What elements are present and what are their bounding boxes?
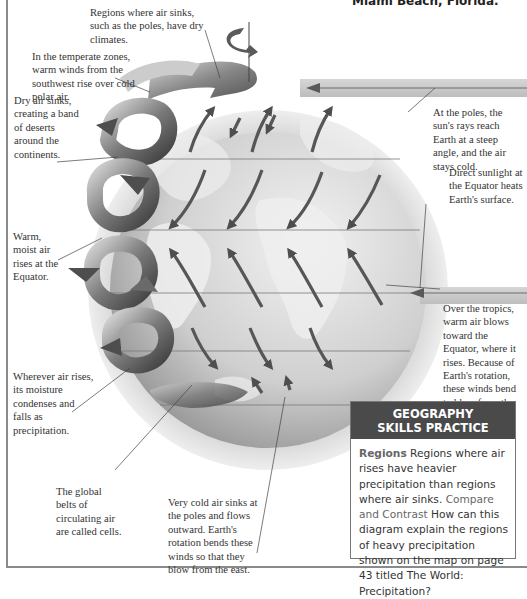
callout-equator-rise: Warm, moist air rises at the Equator. <box>13 230 67 284</box>
rotation-arrow-icon <box>227 28 258 58</box>
callout-precipitation: Wherever air rises, its moisture condens… <box>13 370 95 437</box>
callout-sun-poles: At the poles, the sun's rays reach Earth… <box>433 106 525 173</box>
skills-box-title-line1: GEOGRAPHY <box>351 407 515 421</box>
skills-box-header: GEOGRAPHY SKILLS PRACTICE <box>351 402 515 439</box>
callout-sun-equator: Direct sunlight at the Equator heats Ear… <box>449 166 527 206</box>
skills-box-title-line2: SKILLS PRACTICE <box>351 421 515 435</box>
regions-label: Regions <box>359 447 407 459</box>
callout-poles-dry: Regions where air sinks, such as the pol… <box>90 6 208 46</box>
callout-polar-sink: Very cold air sinks at the poles and flo… <box>168 496 264 576</box>
compare-text: How can this diagram explain the regions… <box>359 508 508 596</box>
skills-box-body: Regions Regions where air rises have hea… <box>351 439 515 599</box>
callout-deserts: Dry air sinks, creating a band of desert… <box>14 94 80 161</box>
geography-skills-practice-box: GEOGRAPHY SKILLS PRACTICE Regions Region… <box>350 401 516 559</box>
callout-cells: The global belts of circulating air are … <box>56 485 122 539</box>
ferrel-cell-ribbon <box>108 106 169 158</box>
